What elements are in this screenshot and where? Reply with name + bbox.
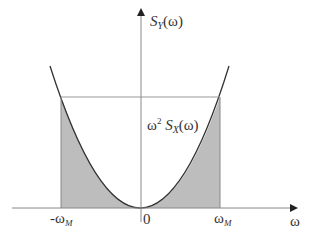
spectrum-diagram: SY(ω) ω2 SX(ω) -ωM 0 ωM ω [0,0,309,232]
tick-omega-m: ωM [214,210,232,228]
curve-label: ω2 SX(ω) [147,116,199,135]
tick-zero: 0 [143,211,151,227]
tick-neg-omega-m: -ωM [50,210,73,228]
y-axis-label: SY(ω) [150,13,183,31]
x-axis-label: ω [290,213,300,229]
